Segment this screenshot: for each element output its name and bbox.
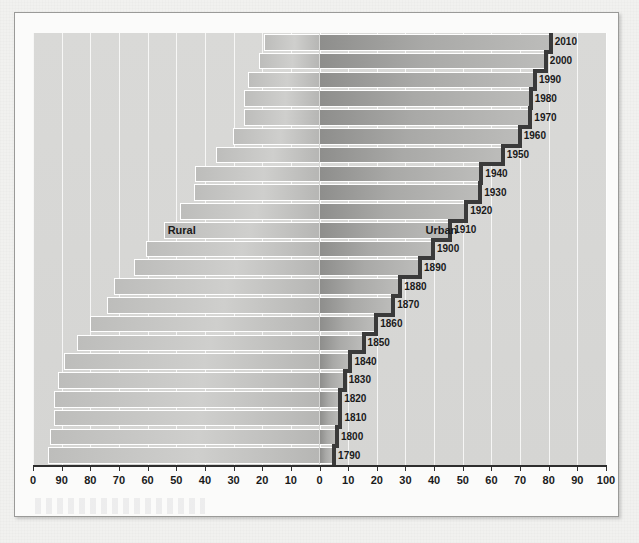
bar-rural [264,34,319,51]
bar-row [33,90,606,107]
x-axis-tick [62,465,63,471]
year-label: 1850 [368,334,390,352]
year-label: 2010 [555,33,577,51]
x-axis-tick [262,465,263,471]
bar-rural [244,90,319,107]
bar-row [33,72,606,89]
bar-rural [58,372,319,389]
year-label: 1940 [485,165,507,183]
bar-row [33,109,606,126]
year-label: 2000 [550,52,572,70]
x-axis-tick-label: 40 [199,474,211,486]
bar-rural [216,147,319,164]
bar-row [33,297,606,314]
x-axis-tick [176,465,177,471]
bar-urban [320,241,433,258]
year-label: 1910 [454,221,476,239]
x-axis-tick-label: 30 [399,474,411,486]
bar-rural [114,278,320,295]
x-axis-tick [549,465,550,471]
year-label: 1790 [338,447,360,465]
year-label: 1880 [404,278,426,296]
year-label: 1920 [470,202,492,220]
x-axis-tick [520,465,521,471]
bar-rural [146,241,319,258]
bar-rural [259,53,319,70]
x-axis-tick-label: 90 [56,474,68,486]
x-axis-tick-label: 60 [485,474,497,486]
x-axis-tick-label: 0 [316,474,322,486]
bar-row [33,203,606,220]
bar-urban [320,109,531,126]
bar-rural [233,128,319,145]
bar-urban [320,297,394,314]
bar-urban [320,410,341,427]
x-axis-tick [119,465,120,471]
step-line-segment [332,446,336,465]
year-label: 1900 [437,240,459,258]
year-label: 1820 [344,390,366,408]
year-label: 1810 [344,409,366,427]
year-label: 1990 [539,71,561,89]
x-axis-tick [148,465,149,471]
bar-rural [48,447,320,464]
bar-rural [54,391,320,408]
year-label: 1840 [354,353,376,371]
year-label: 1980 [535,90,557,108]
bar-urban [320,203,467,220]
x-axis-tick [491,465,492,471]
year-label: 1970 [534,109,556,127]
bar-row [33,391,606,408]
x-axis-tick [377,465,378,471]
year-label: 1950 [507,146,529,164]
region-label-urban: Urban [426,221,458,239]
x-axis-tick [205,465,206,471]
bar-row [33,447,606,464]
bar-rural [195,166,320,183]
bar-rural [180,203,320,220]
bar-row [33,259,606,276]
region-label-rural: Rural [168,221,196,239]
x-axis-tick-label: 40 [428,474,440,486]
x-axis-tick-label: 100 [597,474,615,486]
bar-urban [320,259,421,276]
year-label: 1860 [380,315,402,333]
bar-rural [64,353,320,370]
x-axis-tick-label: 90 [571,474,583,486]
bar-rural [50,429,319,446]
x-axis-tick-label: 70 [113,474,125,486]
x-axis-tick [33,465,34,471]
x-axis-tick-label: 0 [30,474,36,486]
bar-rural [244,109,320,126]
watermark-texture [35,498,205,514]
bar-urban [320,335,364,352]
x-axis-tick [291,465,292,471]
bar-urban [320,166,482,183]
x-axis-tick-label: 10 [342,474,354,486]
bar-row [33,34,606,51]
bar-rural [194,184,320,201]
bar-rural [248,72,319,89]
bar-row [33,353,606,370]
gridline [606,33,607,465]
x-axis-tick [320,465,321,471]
bar-row [33,166,606,183]
year-label: 1890 [424,259,446,277]
bar-urban [320,72,535,89]
x-axis-tick [577,465,578,471]
x-axis-tick-label: 30 [227,474,239,486]
bar-rural [107,297,320,314]
bar-row [33,316,606,333]
bar-row [33,335,606,352]
bar-urban [320,184,481,201]
bar-rural [77,335,319,352]
bar-urban [320,316,377,333]
bar-urban [320,128,520,145]
bar-rural [54,410,320,427]
plot-area: 2010200019901980197019601950194019301920… [33,33,606,465]
x-axis-tick [606,465,607,471]
x-axis-tick-label: 20 [371,474,383,486]
x-axis-tick [434,465,435,471]
bar-urban [320,372,345,389]
bar-urban [320,90,531,107]
